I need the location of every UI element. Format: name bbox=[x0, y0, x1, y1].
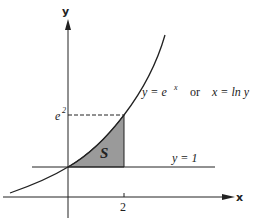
curve-label-y: y = e bbox=[141, 85, 167, 99]
line-label: y = 1 bbox=[171, 151, 197, 165]
x-axis-arrow-icon bbox=[222, 194, 235, 200]
y-axis-arrow-icon bbox=[65, 19, 71, 30]
region-label: S bbox=[100, 145, 108, 161]
x-tick-label: 2 bbox=[120, 200, 126, 214]
curve-label-x: x = ln y bbox=[211, 85, 250, 99]
exponential-curve bbox=[10, 35, 165, 193]
curve-label-or: or bbox=[190, 85, 200, 99]
y-tick-exp: 2 bbox=[62, 106, 66, 115]
curve-label-exp: x bbox=[173, 83, 178, 92]
x-axis-label: x bbox=[236, 191, 243, 204]
y-axis-label: y bbox=[62, 5, 69, 18]
diagram-canvas: y x 2 e 2 y = e x or x = ln y y = 1 S bbox=[0, 0, 262, 220]
y-tick-e: e bbox=[55, 109, 61, 123]
region-s bbox=[68, 115, 124, 167]
